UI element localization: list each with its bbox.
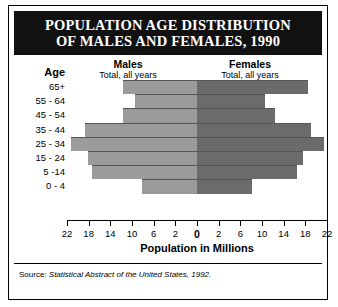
x-tick-2 bbox=[110, 221, 111, 226]
age-label-2: 45 - 54 bbox=[17, 108, 69, 122]
age-label-7: 0 - 4 bbox=[17, 179, 69, 193]
age-label-6: 5 -14 bbox=[17, 165, 69, 179]
source-prefix: Source: bbox=[19, 270, 49, 279]
pyramid-row bbox=[67, 94, 327, 108]
pyramid-row bbox=[67, 108, 327, 122]
age-label-4: 25 - 34 bbox=[17, 137, 69, 151]
pyramid-row bbox=[67, 165, 327, 179]
source-divider bbox=[14, 263, 322, 264]
age-tick-labels: 65+55 - 6445 - 5435 - 4425 - 3415 - 245 … bbox=[17, 80, 69, 194]
age-axis-title: Age bbox=[17, 64, 69, 80]
bar-female-0 bbox=[197, 80, 308, 94]
x-tick-11 bbox=[305, 221, 306, 226]
chart-title-banner: POPULATION AGE DISTRIBUTION OF MALES AND… bbox=[14, 11, 322, 55]
pyramid-row bbox=[67, 179, 327, 193]
age-axis-column: Age 65+55 - 6445 - 5435 - 4425 - 3415 - … bbox=[17, 64, 69, 194]
pyramid-row bbox=[67, 80, 327, 94]
bar-female-3 bbox=[197, 123, 311, 137]
age-label-5: 15 - 24 bbox=[17, 151, 69, 165]
bar-male-7 bbox=[142, 179, 197, 193]
age-label-3: 35 - 44 bbox=[17, 123, 69, 137]
x-tick-4 bbox=[154, 221, 155, 226]
x-tick-3 bbox=[132, 221, 133, 226]
bar-female-7 bbox=[197, 179, 252, 193]
x-tick-10 bbox=[284, 221, 285, 226]
x-tick-7 bbox=[219, 221, 220, 226]
bar-female-1 bbox=[197, 94, 265, 108]
x-axis-tick-labels: 221814106202610141822 bbox=[47, 228, 338, 242]
age-label-0: 65+ bbox=[17, 80, 69, 94]
bar-female-5 bbox=[197, 151, 303, 165]
x-tick-8 bbox=[240, 221, 241, 226]
bar-male-4 bbox=[71, 137, 197, 151]
x-axis-title: Population in Millions bbox=[67, 242, 327, 254]
bar-male-6 bbox=[92, 165, 197, 179]
x-tick-5 bbox=[175, 221, 176, 226]
page-title-line-1: POPULATION AGE DISTRIBUTION bbox=[45, 17, 291, 33]
bar-female-2 bbox=[197, 108, 275, 122]
females-title: Females bbox=[191, 58, 309, 70]
bar-female-6 bbox=[197, 165, 297, 179]
pyramid-row bbox=[67, 137, 327, 151]
population-pyramid-plot bbox=[67, 80, 327, 220]
x-tick-1 bbox=[89, 221, 90, 226]
age-label-1: 55 - 64 bbox=[17, 94, 69, 108]
x-tick-0 bbox=[67, 221, 68, 226]
bar-female-4 bbox=[197, 137, 324, 151]
pyramid-row bbox=[67, 151, 327, 165]
bar-male-5 bbox=[88, 151, 197, 165]
x-tick-12 bbox=[327, 221, 328, 226]
x-tick-9 bbox=[262, 221, 263, 226]
x-tick-label-12: 22 bbox=[312, 228, 338, 240]
bar-male-3 bbox=[85, 123, 197, 137]
pyramid-row bbox=[67, 123, 327, 137]
page-title-line-2: OF MALES AND FEMALES, 1990 bbox=[56, 33, 280, 49]
source-note: Source: Statistical Abstract of the Unit… bbox=[19, 269, 319, 280]
bar-male-2 bbox=[123, 108, 197, 122]
bar-male-0 bbox=[123, 80, 197, 94]
x-tick-6 bbox=[197, 221, 198, 226]
chart-figure: POPULATION AGE DISTRIBUTION OF MALES AND… bbox=[8, 5, 328, 300]
bar-male-1 bbox=[135, 94, 197, 108]
males-title: Males bbox=[69, 58, 187, 70]
source-citation: Statistical Abstract of the United State… bbox=[49, 270, 211, 279]
